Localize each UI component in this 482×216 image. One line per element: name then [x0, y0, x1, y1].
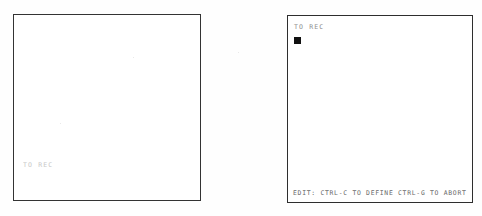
terminal-prompt-right: TO REC — [294, 24, 324, 31]
scan-speckle — [133, 57, 134, 58]
scan-speckle — [60, 123, 61, 124]
status-line-edit-commands: EDIT: CTRL-C TO DEFINE CTRL-G TO ABORT — [293, 190, 467, 196]
terminal-prompt-left: TO REC — [23, 162, 53, 169]
scan-speckle — [238, 52, 239, 53]
figure-canvas: TO REC TO REC EDIT: CTRL-C TO DEFINE CTR… — [0, 0, 482, 216]
text-cursor-block — [294, 37, 301, 44]
terminal-screen-right[interactable]: TO REC EDIT: CTRL-C TO DEFINE CTRL-G TO … — [287, 15, 473, 203]
terminal-screen-left[interactable]: TO REC — [13, 14, 201, 201]
